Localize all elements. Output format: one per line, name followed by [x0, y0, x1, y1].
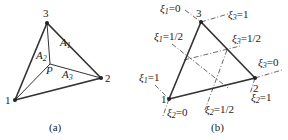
vertex-2-dot: [99, 76, 103, 80]
segment-p-3: [47, 23, 50, 64]
xi1-half-label: ξ1=1/2: [154, 30, 183, 44]
vertex-1-dot-b: [167, 97, 171, 101]
xi1-0-label: ξ1=0: [160, 2, 181, 16]
point-p-label: P: [45, 64, 53, 76]
panel-b: 3 2 1 ξ1=0 ξ1=1/2 ξ1=1 ξ2=0 ξ2=1/2 ξ2=1 …: [139, 2, 282, 134]
xi1-1-label: ξ1=1: [139, 71, 159, 85]
triangle-area-coordinates-figure: 3 2 1 P A1 A2 A3 (a) 3 2 1: [0, 0, 288, 140]
vertex-1-label: 1: [5, 94, 11, 106]
area-a2-label: A2: [35, 49, 47, 63]
caption-a: (a): [49, 121, 62, 134]
xi3-1-line: [201, 14, 228, 22]
xi1-half-line: [172, 44, 228, 88]
xi3-0-label: ξ3=0: [258, 56, 279, 70]
xi3-half-label: ξ3=1/2: [232, 32, 261, 46]
vertex-3-dot-b: [199, 20, 203, 24]
triangle-outline-a: [15, 23, 101, 100]
xi3-0-line: [255, 70, 282, 78]
caption-b: (b): [211, 121, 224, 134]
segment-p-1: [15, 64, 50, 100]
xi2-1-label: ξ2=1: [251, 91, 271, 105]
vertex-2-dot-b: [253, 76, 257, 80]
xi2-half-line: [205, 50, 227, 110]
vertex-3-label-b: 3: [196, 7, 202, 19]
xi2-half-label: ξ2=1/2: [205, 103, 234, 117]
vertex-2-label: 2: [105, 72, 111, 84]
vertex-1-label-b: 1: [161, 93, 167, 105]
panel-a: 3 2 1 P A1 A2 A3 (a): [5, 7, 111, 134]
xi3-1-label: ξ3=1: [228, 8, 248, 22]
xi2-0-label: ξ2=0: [167, 106, 188, 120]
area-a1-label: A1: [59, 36, 71, 50]
vertex-3-label: 3: [43, 7, 49, 19]
vertex-3-dot: [45, 21, 49, 25]
vertex-1-dot: [13, 98, 17, 102]
